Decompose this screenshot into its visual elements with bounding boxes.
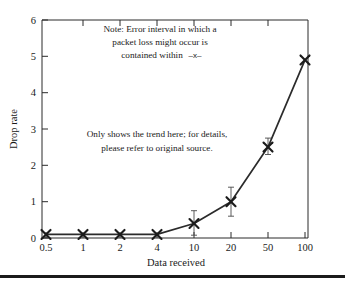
x-tick-label: 100	[297, 242, 313, 253]
y-axis-ticks	[42, 20, 48, 238]
note-line: Note: Error interval in which a	[103, 24, 216, 34]
trend-note: Only shows the trend here; for details, …	[87, 129, 228, 153]
y-tick-label: 0	[31, 233, 36, 244]
x-tick-label: 50	[263, 242, 274, 253]
x-tick-label: 0.5	[39, 242, 52, 253]
y-tick-label: 3	[31, 124, 36, 135]
x-tick-label: 10	[189, 242, 200, 253]
note-line: contained within	[121, 50, 183, 60]
note-line: please refer to original source.	[101, 143, 212, 153]
x-tick-label: 2	[117, 242, 122, 253]
drop-rate-chart: 0 1 2 3 4 5 6 0.5 1	[0, 0, 345, 284]
x-tick-label: 4	[154, 242, 160, 253]
y-tick-label: 1	[31, 196, 36, 207]
x-tick-label: 20	[226, 242, 237, 253]
error-bar-marker-glyph: –x–	[189, 51, 202, 60]
y-axis-tick-labels: 0 1 2 3 4 5 6	[31, 15, 37, 244]
x-axis-title: Data received	[147, 257, 206, 268]
y-axis-title: Drop rate	[8, 109, 19, 149]
y-tick-label: 6	[31, 15, 36, 26]
figure-container: 0 1 2 3 4 5 6 0.5 1	[0, 0, 345, 284]
y-tick-label: 5	[31, 51, 36, 62]
y-tick-label: 4	[31, 87, 37, 98]
note-line: Only shows the trend here; for details,	[87, 129, 228, 139]
y-tick-label: 2	[31, 160, 36, 171]
x-axis-tick-labels: 0.5 1 2 4 10 20 50 100	[39, 242, 312, 253]
bottom-divider-rule	[0, 275, 345, 278]
error-interval-note: Note: Error interval in which a packet l…	[103, 24, 216, 60]
note-line: packet loss might occur is	[112, 37, 208, 47]
x-tick-label: 1	[80, 242, 85, 253]
